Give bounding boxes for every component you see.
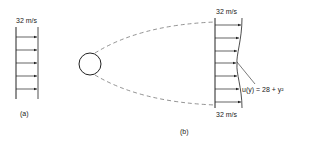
profile-equation: u(y) = 28 + y² <box>242 86 284 94</box>
panel-a-velocity-label: 32 m/s <box>16 17 38 24</box>
panel-b-caption: (b) <box>180 128 189 136</box>
cylinder-icon <box>79 53 101 75</box>
panel-b-top-velocity-label: 32 m/s <box>216 8 238 15</box>
equation-leader-line <box>237 62 255 84</box>
panel-b-wake-diagram: 32 m/s u(y) = 28 + y² 32 m/s (b) <box>79 8 284 136</box>
wake-boundary-lower <box>95 75 215 105</box>
panel-a-uniform-profile: 32 m/s (a) <box>16 17 38 118</box>
panel-a-caption: (a) <box>20 110 29 118</box>
panel-b-bottom-velocity-label: 32 m/s <box>216 111 238 118</box>
fluid-flow-diagram: 32 m/s (a) 32 m/s u(y) = 28 + y² 32 m/s … <box>0 0 309 145</box>
wake-boundary-upper <box>95 22 215 53</box>
